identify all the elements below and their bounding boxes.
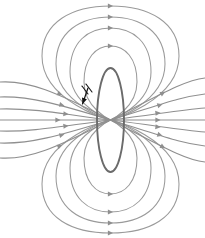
field-line-diagram [0,0,205,238]
magnetic-field-figure [0,0,205,238]
